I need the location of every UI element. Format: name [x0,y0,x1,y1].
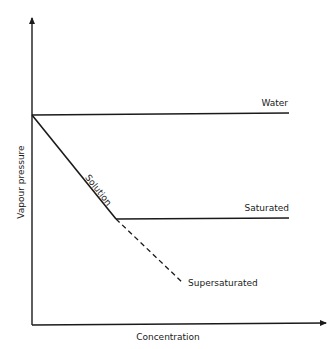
water-label: Water [261,98,288,108]
vapour-pressure-diagram: Water Saturated Supersaturated Solution … [0,0,333,349]
x-axis-label: Concentration [136,332,200,342]
supersaturated-line [116,219,183,283]
saturated-line [116,218,289,219]
supersaturated-label: Supersaturated [188,278,258,288]
saturated-label: Saturated [245,203,289,213]
water-line [32,113,289,115]
solution-label: Solution [83,173,113,208]
diagram-canvas: Water Saturated Supersaturated Solution … [0,0,333,349]
x-axis [32,323,326,325]
y-axis-label: Vapour pressure [16,145,26,219]
